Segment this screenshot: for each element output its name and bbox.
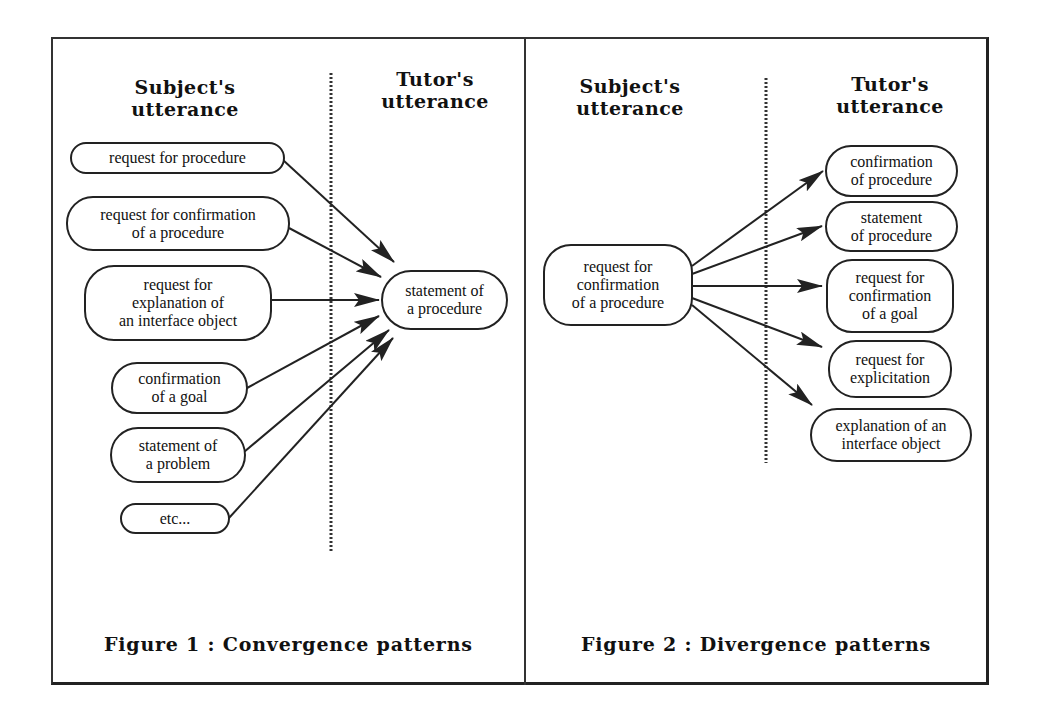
panel-divider	[524, 37, 526, 685]
fig2-source-node: request for confirmation of a procedure	[543, 244, 693, 326]
fig2-target-node: statement of procedure	[825, 201, 958, 252]
fig1-caption: Figure 1 : Convergence patterns	[104, 633, 473, 655]
diagram-canvas: Subject's utterance Tutor's utterance re…	[0, 0, 1044, 716]
fig1-source-node: statement of a problem	[110, 427, 246, 483]
fig1-source-node: request for confirmation of a procedure	[66, 196, 290, 251]
fig2-target-node: request for explicitation	[828, 340, 952, 398]
fig1-source-node: request for procedure	[70, 142, 285, 174]
fig2-target-node: request for confirmation of a goal	[826, 259, 954, 333]
fig1-tutor-heading: Tutor's utterance	[370, 68, 500, 112]
fig1-subject-heading: Subject's utterance	[110, 76, 260, 120]
fig2-subject-heading: Subject's utterance	[560, 75, 700, 119]
fig1-target-node: statement of a procedure	[381, 270, 508, 330]
fig2-caption: Figure 2 : Divergence patterns	[581, 633, 931, 655]
fig2-target-node: explanation of an interface object	[810, 408, 972, 462]
fig2-tutor-heading: Tutor's utterance	[820, 73, 960, 117]
fig1-source-node: etc...	[120, 503, 230, 534]
fig1-source-node: confirmation of a goal	[111, 362, 248, 414]
fig2-target-node: confirmation of procedure	[825, 145, 958, 197]
fig1-source-node: request for explanation of an interface …	[84, 265, 272, 341]
